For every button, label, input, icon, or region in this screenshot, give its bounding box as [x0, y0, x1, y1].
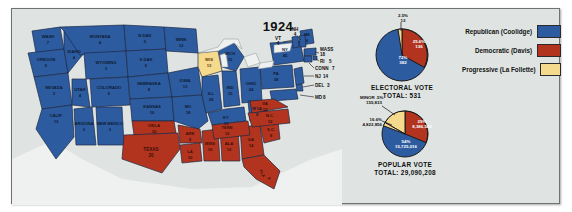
label-california: CALIF. [49, 113, 62, 118]
state-vermont [292, 36, 299, 48]
ev-maryland: 8 [323, 95, 326, 100]
legend-label-progressive: Progressive (La Follette) [462, 66, 535, 73]
label-wisconsin: WIS [205, 57, 213, 62]
label-texas: TEXAS [143, 147, 158, 152]
ev-alabama: 12 [227, 147, 232, 152]
popular-rep-label: 54% 15,725,016 [388, 139, 424, 149]
ev-georgia: 14 [249, 143, 254, 148]
label-arkansas: ARK [185, 131, 194, 136]
ev-louisiana: 10 [188, 155, 193, 160]
label-idaho: IDAHO [67, 49, 81, 54]
label-delaware: DEL [315, 83, 324, 88]
label-wyoming: WYOMING [96, 60, 117, 65]
label-louisiana: LA [187, 149, 193, 154]
us-electoral-map: WASH 7 OREGON 5 IDAHO 4 MONTANA 4 WYOMIN… [12, 9, 342, 205]
label-ohio: OHIO [246, 81, 257, 86]
label-new-york: NY [282, 47, 288, 52]
ev-tennessee: 12 [225, 131, 230, 136]
state-delaware [296, 84, 303, 91]
state-connecticut [304, 56, 312, 62]
label-washington: WASH [42, 34, 55, 39]
label-west-virginia: W VA [252, 107, 262, 111]
label-michigan: MICH [225, 51, 236, 56]
ev-iowa: 13 [183, 84, 188, 89]
state-kansas [130, 97, 174, 121]
popular-prog-label: 16.6% 4,822,856 [348, 117, 382, 127]
label-indiana: IND [226, 85, 233, 90]
ev-pennsylvania: 38 [274, 77, 279, 82]
ev-minnesota: 12 [179, 43, 184, 48]
label-tennessee: TENN [222, 125, 233, 130]
label-south-dakota: S DAK [139, 57, 152, 62]
label-mississippi: MISS [205, 141, 215, 146]
electoral-dem-label: 25.6% 136 [404, 39, 434, 49]
label-montana: MONTANA [89, 34, 110, 39]
ev-delaware: 3 [327, 83, 330, 88]
legend: Republican (Coolidge) Democratic (Davis)… [462, 23, 561, 80]
ev-massachusetts: 18 [320, 52, 326, 57]
label-nebraska: NEBRASKA [137, 81, 161, 86]
legend-swatch-republican [537, 25, 561, 38]
legend-item-progressive: Progressive (La Follette) [462, 61, 561, 77]
state-oregon [28, 49, 68, 77]
label-oregon: OREGON [37, 57, 56, 62]
label-minnesota: MINN [176, 37, 187, 42]
label-colorado: COLORADO [97, 85, 122, 90]
ev-texas: 20 [148, 153, 154, 158]
label-oklahoma: OKLA [148, 123, 160, 128]
label-virginia: VA [262, 101, 268, 106]
ev-indiana: 15 [228, 91, 233, 96]
label-iowa: IOWA [179, 78, 190, 83]
label-pennsylvania: PA [273, 71, 279, 76]
ev-north-carolina: 12 [268, 119, 273, 124]
legend-swatch-progressive [540, 63, 561, 76]
label-alabama: ALA [225, 141, 234, 146]
label-nevada: NEVADA [45, 85, 62, 90]
label-kentucky: KY [223, 115, 229, 120]
ev-ohio: 24 [249, 87, 254, 92]
label-kansas: KANSAS [143, 104, 161, 109]
electoral-rep-label: 72% 382 [386, 55, 420, 65]
popular-vote-caption: POPULAR VOTE TOTAL: 29,090,208 [345, 161, 465, 177]
election-map-figure: WASH 7 OREGON 5 IDAHO 4 MONTANA 4 WYOMIN… [0, 0, 572, 212]
ev-mississippi: 10 [208, 147, 213, 152]
ev-virginia: 12 [263, 107, 268, 112]
legend-swatch-democratic [537, 44, 561, 57]
label-south-carolina: S.C. [267, 127, 275, 132]
state-new-mexico [96, 107, 124, 145]
ev-wisconsin: 13 [207, 63, 212, 68]
electoral-prog-leader [397, 22, 405, 32]
popular-minor-leader [382, 105, 398, 117]
ev-missouri: 18 [186, 110, 191, 115]
popular-prog-leader [382, 119, 394, 127]
ev-new-jersey: 14 [323, 74, 329, 79]
state-wyoming [84, 51, 128, 79]
ev-kansas: 10 [150, 110, 155, 115]
state-new-jersey [294, 67, 304, 85]
label-north-dakota: N DAK [138, 33, 151, 38]
popular-dem-label: 29% 8,386,503 [408, 119, 436, 129]
label-north-carolina: N.C. [266, 113, 274, 118]
state-massachusetts [304, 48, 316, 56]
ev-oklahoma: 10 [152, 129, 157, 134]
label-arizona: ARIZONA [74, 121, 93, 126]
popular-minor-label: MINOR .5% 155,833 [360, 95, 383, 105]
label-utah: UTAH [74, 87, 85, 92]
state-nebraska [128, 73, 172, 99]
legend-item-republican: Republican (Coolidge) [462, 23, 561, 39]
label-new-jersey: NJ [315, 74, 321, 79]
ev-connecticut: 7 [332, 66, 335, 71]
legend-label-democratic: Democratic (Davis) [475, 47, 532, 54]
label-new-mexico: NEW MEXICO [97, 121, 123, 126]
map-svg: WASH 7 OREGON 5 IDAHO 4 MONTANA 4 WYOMIN… [12, 9, 342, 205]
legend-label-republican: Republican (Coolidge) [465, 28, 532, 35]
ev-rhode-island: 5 [329, 59, 332, 64]
figure-frame: WASH 7 OREGON 5 IDAHO 4 MONTANA 4 WYOMIN… [11, 8, 560, 204]
ev-illinois: 29 [209, 97, 214, 102]
state-north-dakota [124, 25, 166, 51]
ev-new-york: 45 [283, 53, 288, 58]
label-rhode-island: RI [320, 59, 325, 64]
label-maryland: MD [315, 95, 323, 100]
ev-california: 13 [54, 119, 59, 124]
charts-panel: 72% 382 25.6% 136 2.5% 13 ELECTORAL VOTE… [342, 9, 561, 205]
